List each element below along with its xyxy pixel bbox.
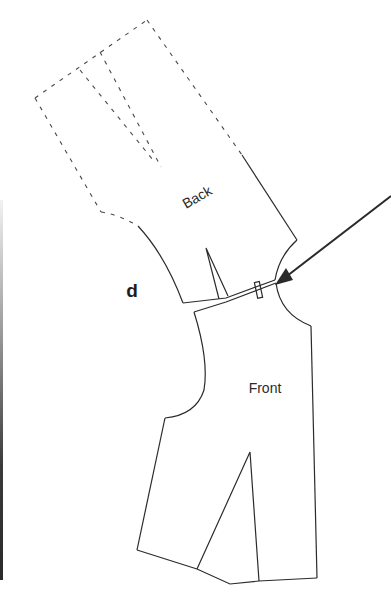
back-top-dashed-edge: [35, 20, 147, 98]
front-center-edge: [311, 326, 317, 578]
front-hem: [137, 550, 317, 584]
front-label: Front: [249, 380, 282, 396]
back-side-seam: [138, 226, 183, 303]
front-shoulder-line: [194, 283, 276, 312]
pattern-diagram: Back Front d: [0, 0, 391, 603]
back-label: Back: [180, 182, 216, 212]
back-inner-guide-2: [100, 52, 161, 167]
front-armhole: [165, 312, 205, 418]
front-pattern-piece: [137, 283, 317, 584]
back-curve-dashed: [101, 212, 138, 226]
back-pattern-piece: [35, 20, 297, 303]
back-dart: [206, 248, 228, 299]
back-inner-guide-1: [80, 70, 153, 160]
back-right-solid-edge: [242, 155, 297, 240]
pointer-arrow: [275, 196, 391, 285]
back-left-dashed-edge: [35, 98, 101, 212]
figure-label: d: [126, 280, 138, 301]
front-neck-curve: [276, 283, 311, 326]
front-waist-dart: [197, 452, 259, 581]
front-side-seam: [137, 418, 165, 550]
back-right-dashed-edge: [147, 20, 242, 155]
